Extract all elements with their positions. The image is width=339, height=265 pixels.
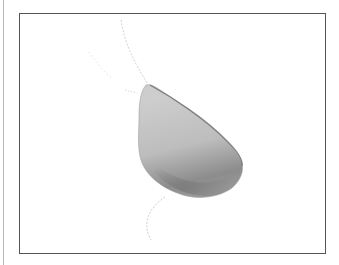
lower-stalk-line <box>147 197 165 240</box>
upper-stalk-line <box>121 20 148 84</box>
seed-sketch <box>0 0 339 265</box>
faint-tick <box>125 90 137 93</box>
faint-side-line <box>89 52 112 78</box>
